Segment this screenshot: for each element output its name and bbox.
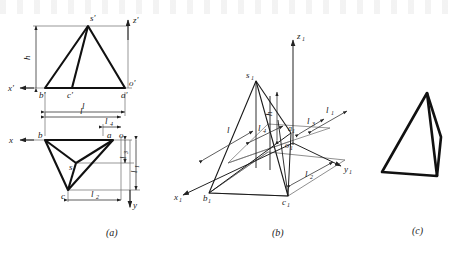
svg-text:l: l xyxy=(118,156,128,159)
svg-text:1: 1 xyxy=(290,145,293,151)
svg-text:l: l xyxy=(305,169,308,179)
svg-text:1: 1 xyxy=(302,36,305,42)
dimension-label-l2: l 2 xyxy=(91,189,99,200)
svg-text:1: 1 xyxy=(287,202,290,208)
caption-a: (a) xyxy=(106,227,118,239)
svg-text:y: y xyxy=(343,164,348,174)
x1-axis-arrow xyxy=(183,143,293,195)
panel-a-front-view: s' b' c' a' z' x' o' h l xyxy=(7,13,140,116)
svg-text:l: l xyxy=(129,170,139,173)
svg-text:c: c xyxy=(282,197,286,207)
label-a-prime: a' xyxy=(121,90,129,100)
label-s: s xyxy=(69,162,73,172)
label-c1: c 1 xyxy=(282,197,290,208)
dimension-label-l-axono: l xyxy=(227,125,230,135)
svg-text:l: l xyxy=(91,189,94,199)
label-c-prime: c' xyxy=(67,90,74,100)
svg-text:z: z xyxy=(296,31,301,41)
pyramid-front-face xyxy=(382,93,437,176)
svg-text:1: 1 xyxy=(134,165,140,168)
label-b: b xyxy=(38,130,43,140)
label-c: c xyxy=(61,191,65,201)
label-s1: s 1 xyxy=(246,70,254,81)
dimension-label-l1-axono: l 1 xyxy=(326,105,334,116)
svg-text:s: s xyxy=(246,70,250,80)
y1-axis-arrow xyxy=(293,143,341,166)
technical-drawing-figure: s' b' c' a' z' x' o' h l xyxy=(0,0,456,255)
svg-text:1: 1 xyxy=(292,128,295,134)
panel-b-axonometric: z 1 y 1 x 1 s 1 b 1 c 1 a 1 o 1 xyxy=(173,31,352,208)
label-x1-axis: x 1 xyxy=(173,192,182,203)
svg-text:4: 4 xyxy=(263,128,266,134)
svg-text:l: l xyxy=(105,116,108,126)
dimension-label-l1: l 1 xyxy=(129,165,140,173)
svg-text:2: 2 xyxy=(310,174,313,180)
svg-text:4: 4 xyxy=(110,121,113,127)
label-y1-axis: y 1 xyxy=(343,164,352,175)
label-z-prime-axis: z' xyxy=(132,15,140,25)
svg-text:3: 3 xyxy=(123,151,129,155)
svg-text:1: 1 xyxy=(331,110,334,116)
c1-projector xyxy=(278,120,288,196)
dimension-label-l3-axono: l 3 xyxy=(307,116,315,127)
label-a: a xyxy=(107,130,112,140)
svg-text:x: x xyxy=(173,192,178,202)
label-s-prime: s' xyxy=(90,13,97,23)
svg-text:1: 1 xyxy=(179,197,182,203)
dimension-label-h: h xyxy=(22,55,32,60)
dimension-label-l4-axono: l 4 xyxy=(258,123,266,134)
dimension-label-l4: l 4 xyxy=(105,116,113,127)
dimension-label-l3: l 3 xyxy=(118,151,129,159)
caption-b: (b) xyxy=(272,227,284,239)
svg-text:1: 1 xyxy=(251,75,254,81)
pyramid-edge-s1-a1 xyxy=(256,81,291,133)
label-y-axis: y xyxy=(132,200,137,210)
panel-a-top-view: b a c s x y o l l 4 l 2 l 3 l 1 xyxy=(8,106,140,210)
svg-text:1: 1 xyxy=(208,198,211,204)
label-b-prime: b' xyxy=(39,90,47,100)
svg-text:2: 2 xyxy=(96,194,99,200)
label-x-prime-axis: x' xyxy=(7,83,15,93)
svg-text:l: l xyxy=(326,105,329,115)
dimension-label-h-axono: h xyxy=(264,111,274,116)
caption-c: (c) xyxy=(412,225,424,237)
dimension-label-l2-axono: l 2 xyxy=(305,169,313,180)
svg-text:l: l xyxy=(307,116,310,126)
label-x-axis: x xyxy=(8,135,13,145)
dimension-line-l4-axono xyxy=(250,126,283,142)
label-b1: b 1 xyxy=(203,193,211,204)
label-o1: o 1 xyxy=(285,141,293,151)
front-view-edge-sc xyxy=(72,26,88,88)
pyramid-face-b1-c1-s1 xyxy=(209,81,288,196)
svg-text:o: o xyxy=(285,141,289,150)
svg-text:1: 1 xyxy=(349,169,352,175)
label-z1-axis: z 1 xyxy=(296,31,305,42)
panel-c-finished-pyramid xyxy=(382,93,441,176)
label-o-prime: o' xyxy=(129,78,137,88)
svg-text:3: 3 xyxy=(311,121,315,127)
label-o: o xyxy=(119,130,124,140)
